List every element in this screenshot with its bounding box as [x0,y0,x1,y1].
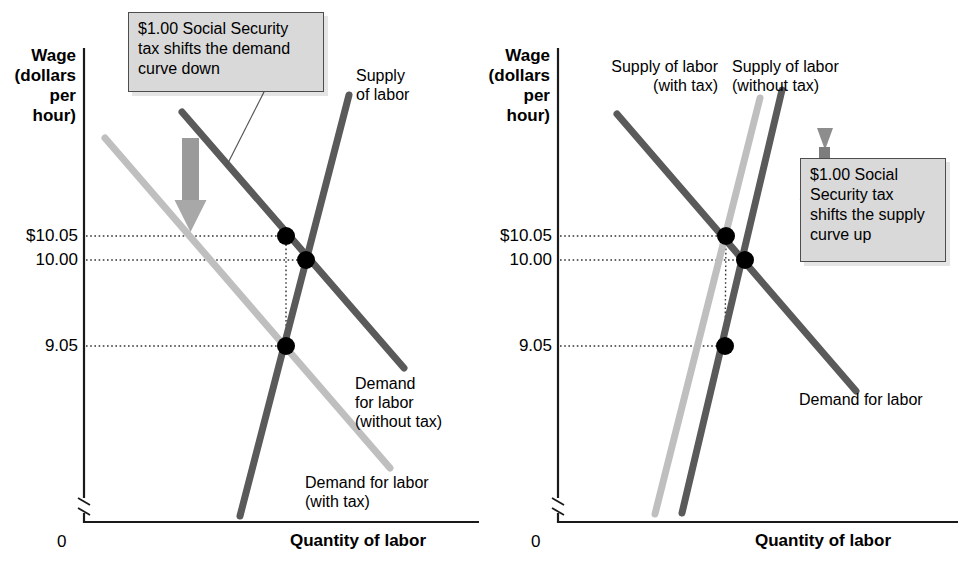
x-axis-title: Quantity of labor [290,531,426,551]
callout-supply-shift: $1.00 Social Security tax shifts the sup… [800,158,946,262]
tick-label-10-00: 10.00 [479,250,552,270]
equilibrium-dot-pretax [297,251,315,269]
panel-supply-shift: Wage (dollars per hour) $10.05 10.00 9.0… [479,0,958,576]
curve-label-demand: Demand for labor [799,390,923,409]
shift-arrow-down [175,138,207,232]
curve-label-supply-without-tax: Supply of labor (without tax) [732,57,892,95]
tick-label-10-05: $10.05 [0,226,78,246]
curve-label-demand-without-tax: Demand for labor (without tax) [355,374,442,431]
curve-label-supply-with-tax: Supply of labor (with tax) [584,57,718,95]
equilibrium-dot-wage-received [716,337,734,355]
origin-label: 0 [57,532,66,552]
origin-label: 0 [531,532,540,552]
y-axis-break-mark-upper [78,498,90,505]
equilibrium-dot-pretax [736,251,754,269]
curve-supply-without-tax [682,90,782,513]
tick-label-10-00: 10.00 [0,250,78,270]
callout-leader-line [226,92,264,167]
tick-label-9-05: 9.05 [0,336,78,356]
equilibrium-dot-wage-received [277,337,295,355]
curve-supply [240,95,349,516]
callout-demand-shift: $1.00 Social Security tax shifts the dem… [128,12,324,92]
equilibrium-dot-wage-paid [717,227,735,245]
tick-label-9-05: 9.05 [479,336,552,356]
curve-label-supply: Supply of labor [356,66,409,104]
economics-figure: Wage (dollars per hour) $10.05 10.00 9.0… [0,0,958,576]
panel-demand-shift: Wage (dollars per hour) $10.05 10.00 9.0… [0,0,479,576]
equilibrium-dot-wage-paid [277,227,295,245]
tick-label-10-05: $10.05 [479,226,552,246]
x-axis-title: Quantity of labor [755,531,891,551]
curve-supply-with-tax [655,98,760,514]
y-axis-title: Wage (dollars per hour) [8,46,76,126]
y-axis-title: Wage (dollars per hour) [482,46,550,126]
curve-label-demand-with-tax: Demand for labor (with tax) [305,473,429,511]
y-axis-break-mark-upper [552,498,564,505]
